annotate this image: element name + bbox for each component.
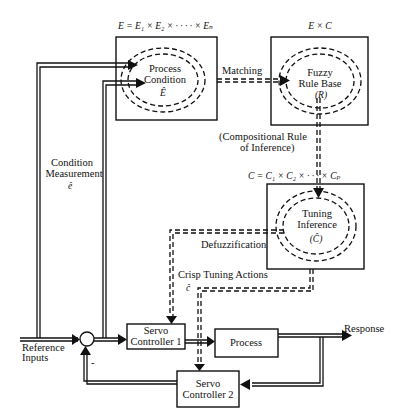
- condition-measurement-label-1: Condition: [51, 157, 94, 168]
- reference-inputs-label-2: Inputs: [22, 352, 48, 363]
- process-condition-label-2: Condition: [144, 74, 187, 85]
- servo-1-label-1: Servo: [144, 325, 169, 336]
- tuning-label-2: Inference: [297, 219, 337, 230]
- servo-controller-1-block: Servo Controller 1: [127, 324, 185, 349]
- tuning-set-label: C = C₁ × C₂ × · · · × Cₚ: [248, 171, 340, 181]
- condition-measurement-symbol: ê: [68, 181, 73, 191]
- condition-measurement-label-2: Measurement: [45, 168, 102, 179]
- crisp-tuning-label: Crisp Tuning Actions: [178, 269, 268, 280]
- minus-sign: -: [91, 357, 95, 368]
- rule-base-set-label: E × C: [307, 21, 332, 31]
- servo-2-label-1: Servo: [196, 378, 221, 389]
- rule-base-label-2: Rule Base: [299, 78, 342, 89]
- crisp-tuning-symbol: ĉ: [186, 283, 191, 293]
- matching-label: Matching: [222, 65, 263, 76]
- compositional-label-2: of Inference): [240, 142, 295, 154]
- process-block: Process: [215, 329, 278, 357]
- servo-controller-2-block: Servo Controller 2: [177, 371, 239, 407]
- servo-1-label-2: Controller 1: [130, 336, 181, 347]
- tuning-label-1: Tuning: [302, 208, 333, 219]
- process-condition-symbol: Ê: [159, 87, 166, 98]
- process-condition-label-1: Process: [149, 63, 181, 74]
- response-label: Response: [344, 323, 385, 334]
- tuning-inference-block: C = C₁ × C₂ × · · · × Cₚ Tuning Inferenc…: [248, 171, 364, 269]
- process-label: Process: [230, 337, 262, 348]
- rule-base-label-1: Fuzzy: [307, 67, 333, 78]
- process-condition-set-label: E = E₁ × E₂ × · · · · × Eₙ: [117, 21, 213, 31]
- process-condition-block: E = E₁ × E₂ × · · · · × Eₙ Process Condi…: [116, 21, 217, 120]
- fuzzy-tuning-block-diagram: E = E₁ × E₂ × · · · · × Eₙ Process Condi…: [0, 0, 400, 412]
- servo-2-label-2: Controller 2: [182, 389, 233, 400]
- summing-junction: [80, 332, 94, 346]
- tuning-symbol: (Ĉ): [310, 233, 323, 245]
- defuzzification-label: Defuzzification: [201, 239, 267, 250]
